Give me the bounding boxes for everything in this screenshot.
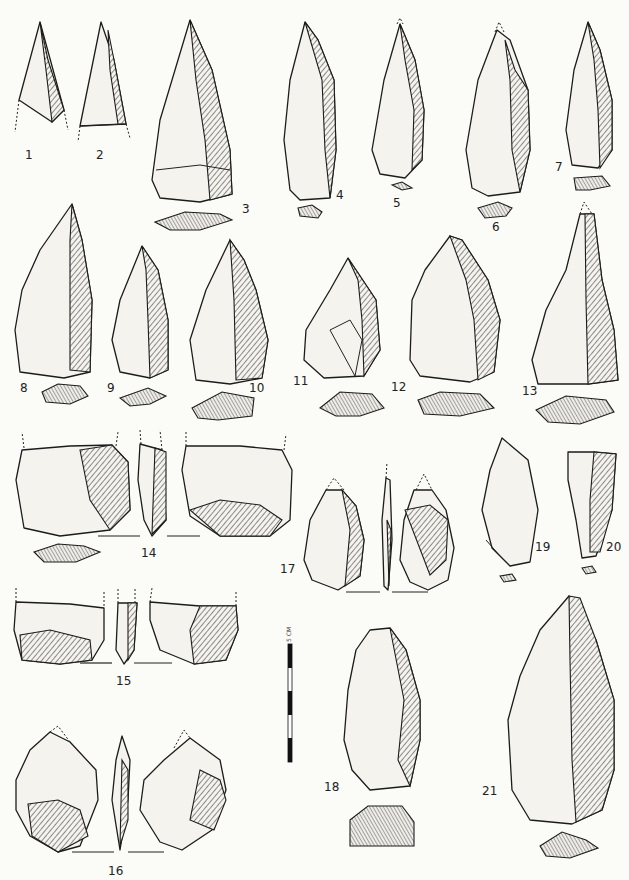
scale-bar: [288, 644, 292, 762]
artifact-6: [466, 22, 530, 218]
artifact-1: [15, 22, 68, 132]
figure-label-4: 4: [336, 188, 344, 202]
figure-label-20: 20: [606, 540, 621, 554]
artifact-3: [152, 20, 232, 230]
artifact-14: [16, 430, 292, 562]
figure-label-11: 11: [293, 374, 308, 388]
figure-label-7: 7: [555, 160, 563, 174]
artifact-9: [112, 246, 168, 406]
artifact-7: [566, 22, 612, 190]
figure-label-10: 10: [249, 381, 264, 395]
figure-label-6: 6: [492, 220, 500, 234]
artifact-18: [344, 628, 420, 846]
artifact-13: [532, 202, 618, 424]
figure-label-3: 3: [242, 202, 250, 216]
artifact-17: [304, 462, 454, 592]
figure-label-9: 9: [107, 381, 115, 395]
figure-label-17: 17: [280, 562, 295, 576]
figure-label-18: 18: [324, 780, 339, 794]
artifact-plate: [0, 0, 629, 880]
artifact-19: [482, 438, 538, 582]
artifact-11: [304, 258, 384, 416]
figure-label-1: 1: [25, 148, 33, 162]
artifact-4: [284, 22, 336, 218]
figure-label-2: 2: [96, 148, 104, 162]
figure-label-14: 14: [141, 546, 156, 560]
figure-label-21: 21: [482, 784, 497, 798]
artifact-16: [16, 726, 226, 852]
figure-label-13: 13: [522, 384, 537, 398]
figure-label-16: 16: [108, 864, 123, 878]
scale-bar-label: 5 CM: [285, 627, 292, 642]
artifact-2: [78, 22, 130, 142]
figure-label-8: 8: [20, 381, 28, 395]
artifact-12: [410, 236, 500, 416]
artifact-21: [508, 596, 614, 858]
artifact-8: [15, 204, 92, 404]
figure-label-12: 12: [391, 380, 406, 394]
artifact-20: [568, 452, 616, 574]
artifact-5: [372, 18, 424, 190]
figure-label-19: 19: [535, 540, 550, 554]
figure-label-15: 15: [116, 674, 131, 688]
artifact-15: [14, 586, 238, 664]
figure-label-5: 5: [393, 196, 401, 210]
